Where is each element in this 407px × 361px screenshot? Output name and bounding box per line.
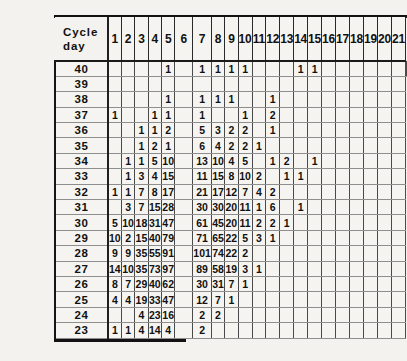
cell-d33-c19 (363, 169, 377, 184)
cell-d36-c9: 2 (225, 123, 238, 138)
cell-d38-c20 (377, 92, 391, 107)
cell-d27-c17 (336, 261, 350, 276)
table-row: 29102154079716522531 (55, 230, 407, 245)
cell-d24-c16 (322, 307, 336, 322)
cell-d34-c13: 2 (280, 153, 294, 168)
cell-d40-c4 (148, 61, 161, 76)
cell-d23-c16 (322, 323, 336, 338)
cell-d40-c20 (377, 61, 391, 76)
cell-d40-c13 (280, 61, 294, 76)
cell-d31-c17 (336, 200, 350, 215)
table-row: 37111112 (55, 107, 407, 122)
cell-d26-c8: 31 (211, 276, 224, 291)
cell-d29-c2: 2 (121, 230, 134, 245)
column-header-19: 19 (363, 17, 377, 61)
cell-d39-c11 (252, 76, 266, 91)
table-header-row: Cycle day 123456789101112131415161718192… (55, 17, 407, 61)
cell-d26-c15 (308, 276, 322, 291)
cell-d26-c9: 7 (225, 276, 238, 291)
column-header-4: 4 (148, 17, 161, 61)
cell-d28-c7: 101 (193, 246, 212, 261)
cell-d24-c3: 4 (135, 307, 148, 322)
cell-d36-c10: 2 (238, 123, 252, 138)
cell-d31-c6 (175, 200, 193, 215)
cell-d38-c4 (148, 92, 161, 107)
cell-d40-c9: 1 (225, 61, 238, 76)
cell-d36-c1 (108, 123, 122, 138)
cell-d37-c14 (294, 107, 308, 122)
cell-d39-c15 (308, 76, 322, 91)
cell-d38-c10 (238, 92, 252, 107)
cell-d40-c7: 1 (193, 61, 212, 76)
cell-d27-c14 (294, 261, 308, 276)
cell-d34-c3: 1 (135, 153, 148, 168)
cell-d32-c6 (175, 184, 193, 199)
cell-d26-c10: 1 (238, 276, 252, 291)
cell-d32-c10: 7 (238, 184, 252, 199)
cell-d35-c12 (266, 138, 280, 153)
cell-d37-c10: 1 (238, 107, 252, 122)
row-label-32: 32 (55, 184, 108, 199)
cell-d39-c8 (211, 76, 224, 91)
frequency-table: Cycle day 123456789101112131415161718192… (54, 17, 407, 339)
cell-d23-c8 (211, 323, 224, 338)
cell-d30-c13: 1 (280, 215, 294, 230)
cell-d40-c18 (350, 61, 364, 76)
cell-d28-c17 (336, 246, 350, 261)
cell-d36-c5: 2 (161, 123, 174, 138)
cell-d25-c21 (391, 292, 405, 307)
cell-d33-c7: 11 (193, 169, 212, 184)
cell-d37-c9 (225, 107, 238, 122)
cell-d39-c17 (336, 76, 350, 91)
cell-d33-c10: 10 (238, 169, 252, 184)
cell-d36-c19 (363, 123, 377, 138)
row-label-40: 40 (55, 61, 108, 76)
cell-d33-c2: 1 (121, 169, 134, 184)
cell-d37-c8 (211, 107, 224, 122)
cell-d31-c20 (377, 200, 391, 215)
cell-d30-c17 (336, 215, 350, 230)
cell-d25-c11 (252, 292, 266, 307)
cell-d34-c2: 1 (121, 153, 134, 168)
cell-d40-c5: 1 (161, 61, 174, 76)
cell-d33-c6 (175, 169, 193, 184)
cell-d33-c1 (108, 169, 122, 184)
cell-d32-c8: 17 (211, 184, 224, 199)
cell-d29-c8: 65 (211, 230, 224, 245)
cell-d25-c16 (322, 292, 336, 307)
cell-d23-c5: 4 (161, 323, 174, 338)
cell-d35-c20 (377, 138, 391, 153)
cell-d33-c21 (391, 169, 405, 184)
column-header-2: 2 (121, 17, 134, 61)
cell-d31-c19 (363, 200, 377, 215)
cell-d33-c17 (336, 169, 350, 184)
cell-d24-c19 (363, 307, 377, 322)
cell-d36-c3: 1 (135, 123, 148, 138)
cell-d28-c18 (350, 246, 364, 261)
row-label-34: 34 (55, 153, 108, 168)
column-header-16: 16 (322, 17, 336, 61)
column-header-6: 6 (175, 17, 193, 61)
cell-d38-c19 (363, 92, 377, 107)
cell-d23-c12 (266, 323, 280, 338)
column-header-3: 3 (135, 17, 148, 61)
cell-d23-c15 (308, 323, 322, 338)
cell-d23-c11 (252, 323, 266, 338)
cell-d28-c12 (266, 246, 280, 261)
row-label-36: 36 (55, 123, 108, 138)
column-header-11: 11 (252, 17, 266, 61)
cell-d24-c15 (308, 307, 322, 322)
cell-d25-c9: 1 (225, 292, 238, 307)
row-label-38: 38 (55, 92, 108, 107)
cell-d39-c6 (175, 76, 193, 91)
cell-d35-c4: 2 (148, 138, 161, 153)
table-row: 3137152830302011161 (55, 200, 407, 215)
cell-d28-c21 (391, 246, 405, 261)
cell-d31-c15 (308, 200, 322, 215)
cell-d35-c6 (175, 138, 193, 153)
row-label-27: 27 (55, 261, 108, 276)
cell-d35-c1 (108, 138, 122, 153)
cell-d34-c18 (350, 153, 364, 168)
cell-d24-c11 (252, 307, 266, 322)
cell-d34-c1 (108, 153, 122, 168)
